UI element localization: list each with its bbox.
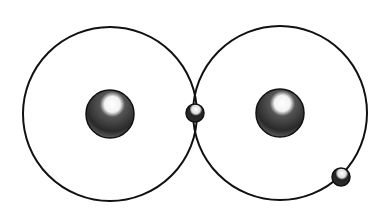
bond-diagram bbox=[0, 0, 388, 216]
right-nucleus bbox=[256, 89, 304, 137]
left-nucleus bbox=[86, 90, 134, 138]
orbit-electron bbox=[332, 168, 350, 186]
shared-electron bbox=[186, 104, 204, 122]
left-atom bbox=[23, 27, 197, 201]
